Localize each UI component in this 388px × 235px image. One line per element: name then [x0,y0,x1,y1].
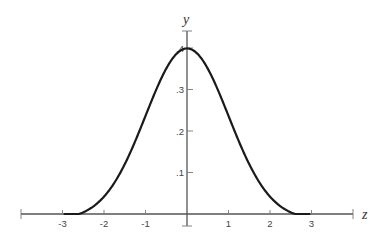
y-ticks: .1.2.3.4 [176,43,193,179]
axes [21,31,353,226]
x-tick-label: 1 [226,218,231,229]
x-tick-label: 2 [267,218,272,229]
x-tick-label: -1 [141,218,149,229]
y-tick-label: .3 [176,84,184,95]
x-tick-label: -2 [100,218,108,229]
y-axis-label: y [181,12,190,27]
x-tick-label: 3 [309,218,314,229]
y-tick-label: .2 [176,126,184,137]
x-tick-label: -3 [58,218,66,229]
normal-curve-chart: -3-2-1123 .1.2.3.4 z y [0,0,388,235]
x-axis-label: z [361,207,368,222]
y-tick-label: .1 [176,167,184,178]
